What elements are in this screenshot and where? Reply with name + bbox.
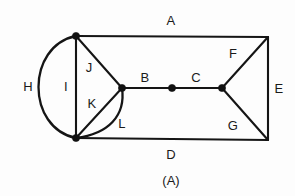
edge-label-a: A [167, 14, 176, 27]
edge-label-j: J [86, 61, 93, 74]
vertex-left-middle [118, 84, 125, 91]
edge-label-i: I [64, 80, 68, 93]
graph-diagram-svg [0, 0, 295, 196]
edge-d [76, 138, 268, 140]
figure-caption: (A) [162, 174, 179, 187]
edge-a [76, 36, 268, 37]
edge-label-f: F [229, 47, 237, 60]
vertex-center [168, 84, 175, 91]
edge-label-c: C [191, 71, 201, 84]
edge-h [39, 36, 77, 138]
vertex-right-middle [218, 84, 225, 91]
edge-label-k: K [88, 97, 97, 110]
vertex-top-left [72, 32, 79, 39]
edge-label-h: H [23, 80, 33, 93]
vertex-bottom-left [72, 134, 79, 141]
figure-container: AHIJKLBCFGED (A) [0, 0, 295, 196]
edge-label-d: D [166, 148, 176, 161]
edge-label-b: B [141, 71, 150, 84]
edge-label-e: E [275, 82, 284, 95]
edge-j [76, 36, 122, 88]
edge-label-g: G [228, 119, 238, 132]
edge-label-l: L [118, 117, 125, 130]
